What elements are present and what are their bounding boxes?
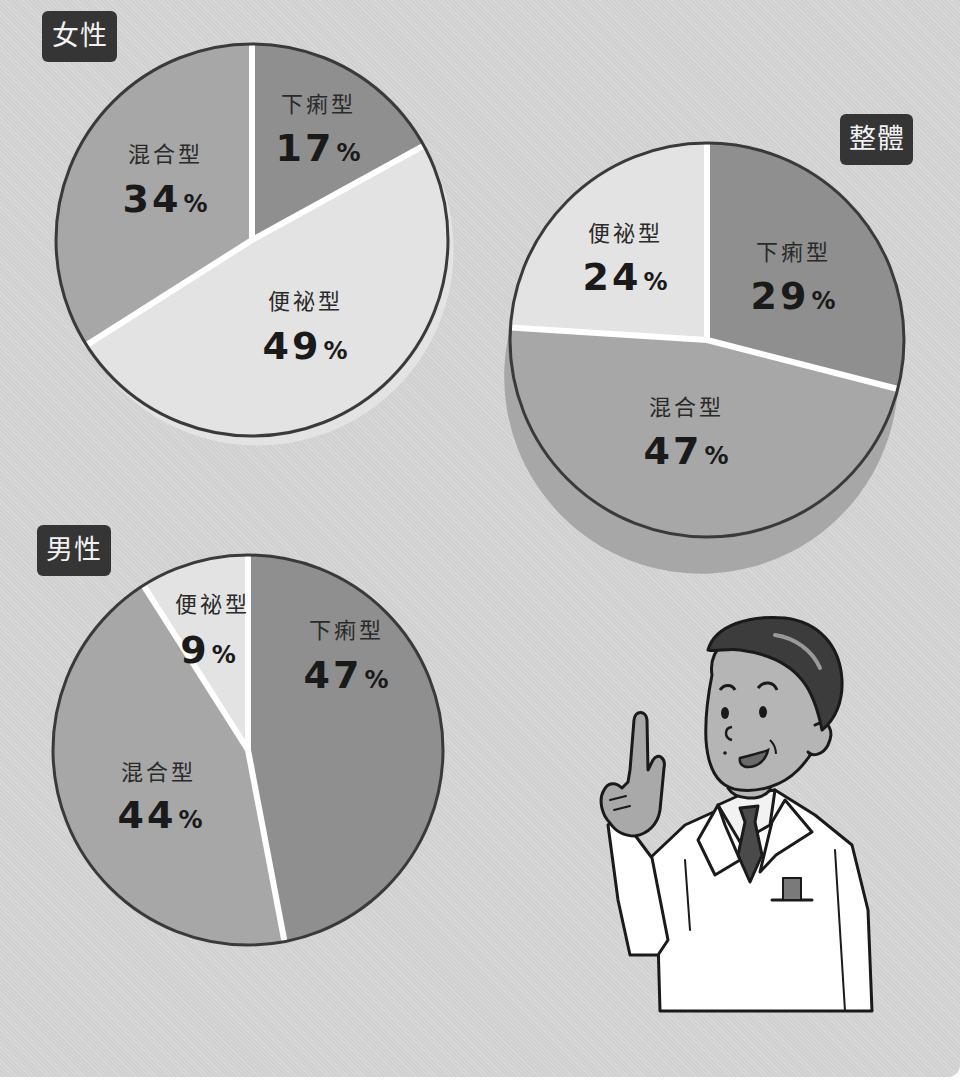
label-female-mixed: 混合型 (128, 136, 203, 168)
value-female-diarrhea: 17% (276, 126, 361, 170)
value-female-mixed: 34% (123, 177, 208, 221)
badge-overall: 整體 (840, 114, 913, 165)
value-male-constipation: 9% (180, 628, 236, 672)
label-overall-mixed: 混合型 (649, 389, 724, 421)
pie-female (56, 44, 454, 445)
value-male-diarrhea: 47% (304, 653, 389, 697)
pie-overall (504, 143, 904, 574)
label-overall-constipation: 便祕型 (588, 215, 663, 247)
doctor-illustration-icon (590, 610, 880, 1015)
label-male-diarrhea: 下痢型 (309, 612, 384, 644)
value-overall-constipation: 24% (583, 255, 668, 299)
label-male-constipation: 便祕型 (175, 586, 250, 618)
label-female-constipation: 便祕型 (268, 283, 343, 315)
label-female-diarrhea: 下痢型 (281, 86, 356, 118)
badge-female: 女性 (42, 11, 117, 62)
value-male-mixed: 44% (118, 793, 203, 837)
value-overall-mixed: 47% (644, 429, 729, 473)
value-female-constipation: 49% (263, 324, 348, 368)
badge-male: 男性 (37, 525, 111, 576)
label-overall-diarrhea: 下痢型 (756, 234, 831, 266)
value-overall-diarrhea: 29% (751, 274, 836, 318)
label-male-mixed: 混合型 (121, 754, 196, 786)
